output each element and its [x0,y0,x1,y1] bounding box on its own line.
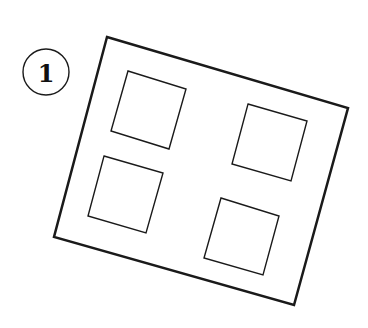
diagram-figure: 1 [0,0,368,328]
figure-number-badge: 1 [23,49,69,95]
outer-frame-rectangle [54,37,348,305]
inner-square-bottom-left [88,156,163,233]
inner-squares-group [88,71,307,275]
figure-number-label: 1 [38,59,55,88]
inner-square-bottom-right [204,198,279,275]
inner-square-top-right [232,104,307,181]
inner-square-top-left [111,71,186,149]
diagram-canvas: 1 [0,0,368,328]
